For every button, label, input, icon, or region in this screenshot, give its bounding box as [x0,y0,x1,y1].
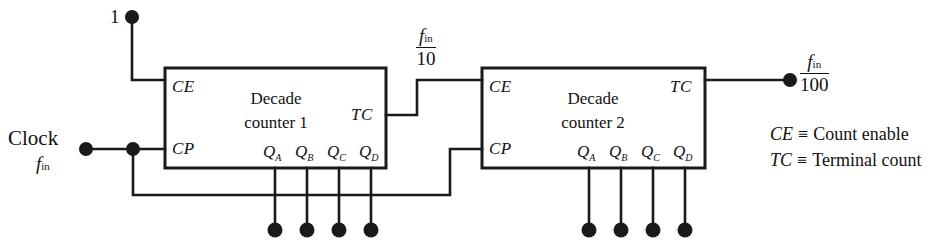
qb-letter: Q [295,142,307,161]
qd2-letter: Q [673,142,685,161]
fin100-numerator: fin [800,52,829,74]
fin10-numerator: fin [416,26,436,48]
dot-q1a [268,223,283,238]
qd-letter: Q [359,142,371,161]
dot-q2c [646,223,661,238]
dot-q1d [364,223,379,238]
legend-row-tc: TC≡Terminal count [770,150,921,171]
qc2-subscript: C [653,152,660,163]
signal-fin-over-10: fin 10 [416,26,436,69]
qa2-letter: Q [577,142,589,161]
counter-1-title-line2: counter 1 [216,114,336,131]
wire-tc1-to-ce2 [386,80,482,115]
legend-tc-symbol: TC [770,150,792,170]
fin100-denominator: 100 [800,74,829,95]
dot-q2d [678,223,693,238]
counter-1-pin-ce: CE [172,78,195,95]
dot-q2a [582,223,597,238]
qc2-letter: Q [641,142,653,161]
counter-2-pin-cp: CP [489,140,512,157]
counter-2-output-qb: QB [609,143,627,163]
legend-ce-meaning: Count enable [813,124,908,144]
counter-1-output-qc: QC [327,143,346,163]
counter-1-output-qb: QB [295,143,313,163]
dot-logic1 [125,10,139,24]
circuit-diagram: 1 Clock fin CE CP TC Decade counter 1 QA… [0,0,947,248]
counter-2-title-line1: Decade [533,90,653,107]
clock-label: Clock [8,128,58,149]
qc-letter: Q [327,142,339,161]
dot-clock-junction [126,142,140,156]
counter-1-output-qd: QD [359,143,379,163]
counter-1-pin-cp: CP [172,140,195,157]
legend-row-ce: CE≡Count enable [770,124,909,145]
dot-output-fin100 [783,73,797,87]
legend-ce-symbol: CE [770,124,793,144]
counter-2-pin-ce: CE [489,78,512,95]
counter-1-pin-tc: TC [351,106,373,123]
dot-q2b [614,223,629,238]
dot-q1b [300,223,315,238]
counter-2-pin-tc: TC [670,78,692,95]
legend-tc-meaning: Terminal count [812,150,921,170]
counter-2-title-line2: counter 2 [533,114,653,131]
qb2-subscript: B [621,152,627,163]
qa-subscript: A [275,152,281,163]
dot-clock-terminal [79,142,93,156]
counter-1-output-qa: QA [263,143,281,163]
logic-one-label: 1 [110,7,120,26]
dot-q1c [332,223,347,238]
qa2-subscript: A [589,152,595,163]
clock-frequency-label: fin [36,154,50,173]
fin10-subscript: in [424,32,433,44]
clock-freq-subscript: in [41,160,50,172]
legend-ce-equiv: ≡ [793,124,813,144]
qb2-letter: Q [609,142,621,161]
counter-1-title-line1: Decade [216,90,336,107]
qd-subscript: D [371,152,378,163]
counter-2-output-qd: QD [673,143,693,163]
qb-subscript: B [307,152,313,163]
counter-2-output-qc: QC [641,143,660,163]
fin10-denominator: 10 [416,48,436,69]
counter-2-output-qa: QA [577,143,595,163]
signal-fin-over-100: fin 100 [800,52,829,95]
qc-subscript: C [339,152,346,163]
qd2-subscript: D [685,152,692,163]
qa-letter: Q [263,142,275,161]
wire-logic1-to-ce1 [132,18,165,80]
fin100-subscript: in [813,58,822,70]
legend-tc-equiv: ≡ [792,150,812,170]
